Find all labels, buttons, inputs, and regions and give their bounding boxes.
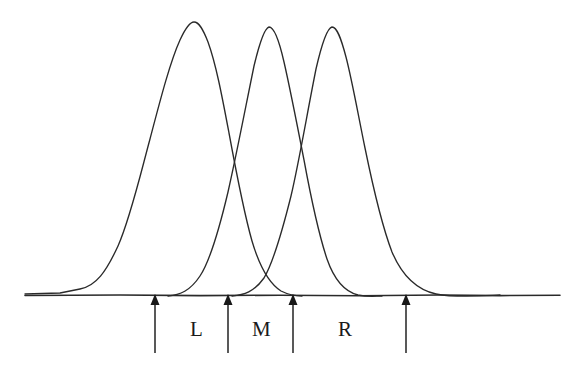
boundary-arrow-4: [402, 294, 411, 353]
boundary-arrow-2: [224, 294, 233, 353]
boundary-arrow-3: [289, 294, 298, 353]
curve-middle: [168, 27, 382, 296]
curve-left: [25, 22, 302, 296]
curve-right: [232, 27, 500, 296]
region-label-r: R: [338, 319, 352, 340]
distribution-curves-chart: [0, 0, 579, 373]
figure-root: L M R: [0, 0, 579, 373]
region-label-m: M: [252, 319, 271, 340]
region-label-l: L: [190, 319, 203, 340]
boundary-arrow-1: [151, 294, 160, 353]
